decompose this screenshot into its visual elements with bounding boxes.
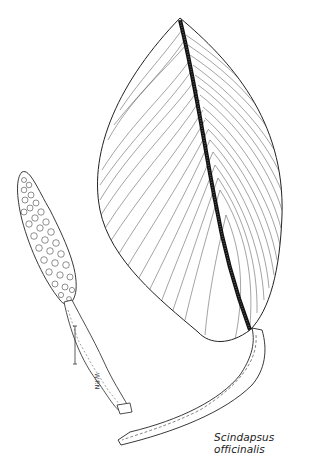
spadix-inflorescence <box>18 172 77 305</box>
leaf-petiole <box>118 328 265 445</box>
species-caption: Scindapsus officinalis <box>214 431 321 455</box>
botanical-illustration <box>0 0 321 461</box>
artist-signature: W.P.N <box>94 373 101 389</box>
leaf <box>98 18 283 342</box>
peduncle <box>64 300 132 414</box>
